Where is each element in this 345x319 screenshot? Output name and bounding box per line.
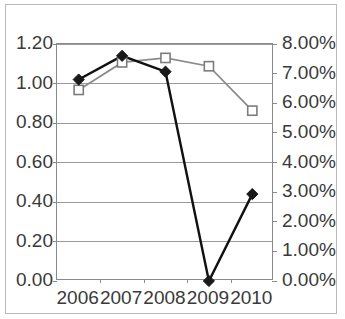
series-square-markers xyxy=(74,53,257,115)
left-axis-label: 0.20 xyxy=(16,231,53,250)
data-point-diamond xyxy=(73,74,84,85)
data-point-square xyxy=(204,62,213,71)
right-axis-label: 1.00% xyxy=(282,240,336,259)
data-point-square xyxy=(74,85,83,94)
right-axis-label: 5.00% xyxy=(282,122,336,141)
right-axis-label: 7.00% xyxy=(282,63,336,82)
data-point-diamond xyxy=(203,275,214,286)
right-axis-label: 8.00% xyxy=(282,33,336,52)
plot-area xyxy=(56,43,273,280)
data-point-diamond xyxy=(160,66,171,77)
data-point-square xyxy=(248,106,257,115)
right-axis-label: 4.00% xyxy=(282,152,336,171)
right-axis-label: 6.00% xyxy=(282,92,336,111)
series-plot xyxy=(57,44,274,281)
left-axis-label: 1.20 xyxy=(16,33,53,52)
right-axis-label: 2.00% xyxy=(282,211,336,230)
right-axis-label: 0.00% xyxy=(282,270,336,289)
data-point-diamond xyxy=(247,189,258,200)
chart-frame: 0.000.200.400.600.801.001.20 0.00%1.00%2… xyxy=(5,4,337,314)
series-diamond-markers xyxy=(73,50,258,286)
left-axis-label: 0.00 xyxy=(16,270,53,289)
left-axis-label: 0.40 xyxy=(16,191,53,210)
series-diamond-line xyxy=(79,56,253,281)
left-axis-label: 1.00 xyxy=(16,73,53,92)
data-point-square xyxy=(161,53,170,62)
left-axis-label: 0.80 xyxy=(16,112,53,131)
left-axis-label: 0.60 xyxy=(16,152,53,171)
x-axis-label: 2010 xyxy=(225,288,277,307)
right-axis-label: 3.00% xyxy=(282,181,336,200)
